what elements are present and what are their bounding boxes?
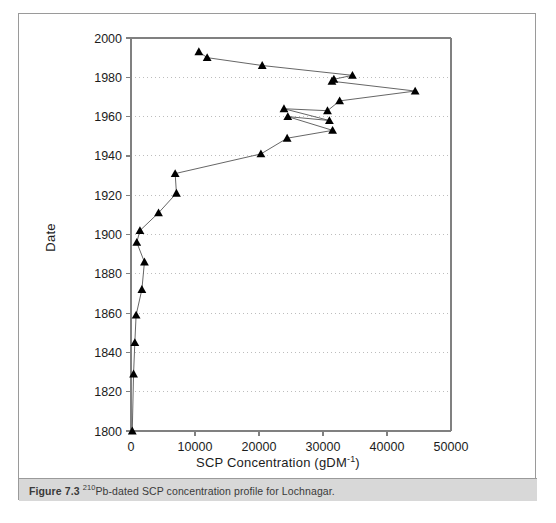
gridlines	[131, 77, 451, 391]
data-point-marker	[132, 311, 141, 319]
data-point-marker	[137, 285, 146, 293]
x-tick-label: 40000	[370, 440, 405, 454]
x-tick-label: 20000	[242, 440, 277, 454]
x-axis-title-main: SCP Concentration (gDM	[196, 455, 347, 470]
chart-region: 01000020000300004000050000 1800182018401…	[19, 14, 537, 469]
y-tick-label: 1820	[94, 385, 122, 399]
y-tick-label: 1900	[94, 228, 122, 242]
y-axis-title: Date	[43, 193, 58, 283]
y-axis-ticks: 1800182018401860188019001920194019601980…	[94, 32, 131, 439]
data-point-marker	[203, 53, 212, 61]
series-line	[132, 52, 415, 431]
y-tick-label: 1860	[94, 307, 122, 321]
y-tick-label: 1980	[94, 71, 122, 85]
y-tick-label: 1940	[94, 149, 122, 163]
data-point-marker	[140, 258, 149, 266]
figure-caption-band: Figure 7.3 210Pb-dated SCP concentration…	[19, 478, 537, 501]
data-point-marker	[132, 238, 141, 246]
x-tick-label: 10000	[178, 440, 213, 454]
data-point-marker	[194, 47, 203, 55]
y-tick-label: 1920	[94, 189, 122, 203]
data-point-marker	[283, 112, 292, 120]
x-tick-label: 0	[128, 440, 135, 454]
y-tick-label: 1840	[94, 346, 122, 360]
figure-frame: 01000020000300004000050000 1800182018401…	[18, 13, 536, 500]
x-axis-title: SCP Concentration (gDM-1)	[19, 454, 537, 470]
data-point-marker	[257, 150, 266, 158]
y-tick-label: 1960	[94, 110, 122, 124]
y-tick-label: 1880	[94, 267, 122, 281]
x-axis-title-close: )	[355, 455, 360, 470]
caption-isotope-superscript: 210	[83, 483, 96, 492]
x-axis-ticks: 01000020000300004000050000	[128, 431, 469, 454]
y-tick-label: 1800	[94, 425, 122, 439]
y-tick-label: 2000	[94, 32, 122, 46]
caption-figure-number: Figure 7.3	[29, 485, 80, 497]
caption-body: Pb-dated SCP concentration profile for L…	[95, 485, 334, 497]
x-tick-label: 30000	[306, 440, 341, 454]
data-point-marker	[172, 189, 181, 197]
series-markers	[128, 47, 420, 434]
x-tick-label: 50000	[434, 440, 469, 454]
data-point-marker	[280, 104, 289, 112]
scp-concentration-plot: 01000020000300004000050000 1800182018401…	[19, 14, 537, 469]
figure-caption: Figure 7.3 210Pb-dated SCP concentration…	[19, 483, 335, 497]
